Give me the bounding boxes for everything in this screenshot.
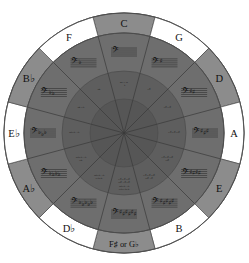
accidental-list: D♯	[166, 158, 170, 162]
flat-icon: ♭	[79, 58, 82, 66]
accidental-list: D♯ A♯	[145, 176, 153, 180]
bass-clef-icon: 𝄢	[193, 126, 200, 137]
key-label: D	[215, 73, 223, 84]
sharp-icon: ♯	[192, 88, 195, 96]
flat-icon: ♭	[90, 198, 93, 206]
sharp-icon: ♯	[160, 57, 163, 65]
bass-clef-icon: 𝄢	[152, 56, 159, 67]
key-signature-staff: 𝄢♭♭♭♭♭	[71, 196, 97, 207]
key-label: B	[175, 223, 182, 234]
circle-of-fifths-wheel: C𝄢no # or♭G𝄢♯F♯D𝄢♯♯F♯ C♯A𝄢♯♯♯F♯ C♯ G♯E𝄢♯…	[0, 0, 249, 263]
accidental-list: F♯ C♯ G♯	[168, 130, 180, 134]
accidental-list: B♭ E♭ A♭	[69, 130, 80, 134]
key-label: A	[230, 128, 238, 139]
accidental-list: D♭ G♭	[96, 176, 104, 180]
key-label: F	[66, 32, 72, 43]
sharp-icon: ♯	[198, 169, 201, 177]
flat-icon: ♭	[58, 170, 61, 178]
bass-clef-icon: 𝄢	[41, 86, 48, 97]
key-label: A♭	[22, 183, 35, 194]
bass-clef-icon: 𝄢	[152, 196, 159, 207]
bass-clef-icon: 𝄢	[112, 207, 119, 218]
sharp-icon: ♯	[171, 197, 174, 205]
circle-of-fifths-figure: C𝄢no # or♭G𝄢♯F♯D𝄢♯♯F♯ C♯A𝄢♯♯♯F♯ C♯ G♯E𝄢♯…	[0, 0, 249, 263]
flat-icon: ♭	[52, 89, 55, 97]
accidental-list: D♭ G♭ C♭	[119, 187, 131, 191]
key-label: B♭	[23, 73, 35, 84]
flat-icon: ♭	[44, 128, 47, 136]
key-label: C	[120, 18, 127, 29]
key-label: F♯ or G♭	[109, 240, 139, 249]
bass-clef-icon: 𝄢	[31, 126, 38, 137]
bass-clef-icon: 𝄢	[182, 167, 189, 178]
key-signature-staff: 𝄢♯♯♯♯♯♯	[111, 207, 137, 218]
accidental-list: F♯ C♯	[164, 105, 172, 109]
bass-clef-icon: 𝄢	[112, 45, 119, 56]
key-label: D♭	[63, 223, 76, 234]
sharp-icon: ♯	[134, 210, 137, 218]
accidental-list: B♭ E♭	[77, 105, 84, 109]
sharp-icon: ♯	[206, 127, 209, 135]
bass-clef-icon: 𝄢	[71, 56, 78, 67]
key-label: G	[175, 32, 183, 43]
key-label: E♭	[8, 128, 19, 139]
key-label: E	[216, 183, 222, 194]
bass-clef-icon: 𝄢	[41, 167, 48, 178]
bass-clef-icon: 𝄢	[71, 196, 78, 207]
bass-clef-icon: 𝄢	[182, 86, 189, 97]
